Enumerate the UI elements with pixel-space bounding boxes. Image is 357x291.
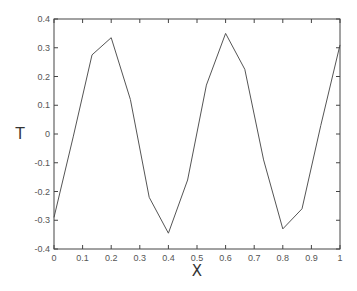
y-tick-label: 0 [45, 129, 50, 139]
x-tick-label: 0.4 [162, 253, 175, 263]
x-tick-label: 0.6 [219, 253, 232, 263]
x-tick-label: 0.2 [105, 253, 118, 263]
y-tick-label: -0.3 [34, 215, 50, 225]
y-tick-label: -0.4 [34, 244, 50, 254]
y-tick-label: 0.4 [37, 14, 50, 24]
y-tick-label: 0.3 [37, 43, 50, 53]
data-series-line [54, 33, 340, 233]
y-tick-label: 0.1 [37, 100, 50, 110]
series-polyline [54, 33, 340, 233]
x-tick-label: 1 [337, 253, 342, 263]
x-tick-label: 0.7 [248, 253, 261, 263]
line-chart: 00.10.20.30.40.50.60.70.80.91 -0.4-0.3-0… [0, 0, 357, 291]
x-axis-ticks: 00.10.20.30.40.50.60.70.80.91 [51, 19, 342, 263]
y-tick-label: 0.2 [37, 72, 50, 82]
y-tick-label: -0.2 [34, 187, 50, 197]
x-tick-label: 0.9 [305, 253, 318, 263]
x-axis-label: X [192, 262, 202, 280]
x-tick-label: 0.8 [277, 253, 290, 263]
y-tick-label: -0.1 [34, 158, 50, 168]
y-axis-label: T [14, 125, 25, 143]
x-tick-label: 0 [51, 253, 56, 263]
y-axis-ticks: -0.4-0.3-0.2-0.100.10.20.30.4 [34, 14, 340, 254]
x-tick-label: 0.1 [76, 253, 89, 263]
x-tick-label: 0.3 [134, 253, 147, 263]
